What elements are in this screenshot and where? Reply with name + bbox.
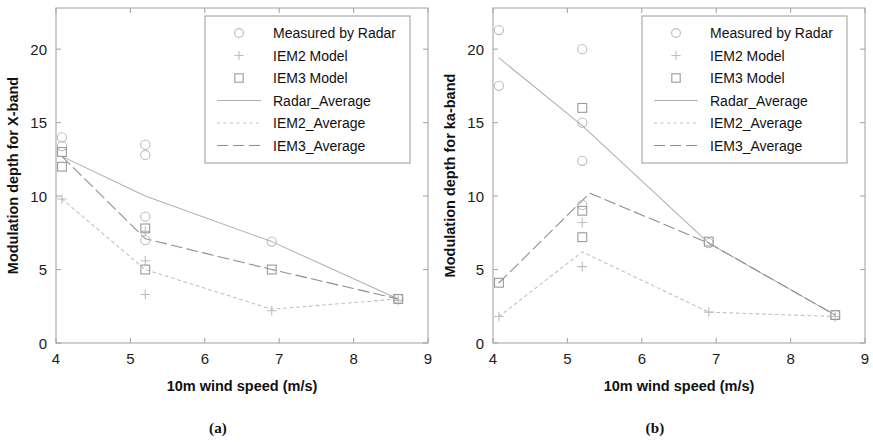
- data-point-plus: [140, 256, 150, 266]
- data-point-circle: [141, 150, 150, 159]
- data-point-circle: [494, 25, 503, 34]
- legend-item-label: Radar_Average: [710, 93, 808, 109]
- x-tick-label: 6: [201, 350, 209, 367]
- y-tick-label: 10: [467, 188, 484, 205]
- x-axis-title: 10m wind speed (m/s): [604, 378, 755, 394]
- legend-item-label: IEM2 Model: [273, 48, 348, 64]
- series-line-4: [62, 199, 398, 309]
- x-tick-label: 8: [786, 350, 794, 367]
- chart-panel-b: 4567890510152010m wind speed (m/s)Modula…: [437, 0, 873, 443]
- legend-item-label: Radar_Average: [273, 93, 371, 109]
- x-axis-title: 10m wind speed (m/s): [167, 378, 318, 394]
- data-point-circle: [141, 236, 150, 245]
- legend: Measured by RadarIEM2 ModelIEM3 ModelRad…: [205, 16, 410, 163]
- legend-item-label: IEM3_Average: [273, 138, 366, 154]
- data-point-square: [58, 162, 67, 171]
- x-tick-label: 8: [349, 350, 357, 367]
- chart-svg-a: 4567890510152010m wind speed (m/s)Modula…: [0, 0, 436, 400]
- data-point-circle: [57, 133, 66, 142]
- x-tick-label: 7: [712, 350, 720, 367]
- data-point-circle: [578, 200, 587, 209]
- y-tick-label: 0: [39, 335, 47, 352]
- y-tick-label: 0: [476, 335, 484, 352]
- data-point-plus: [267, 306, 277, 316]
- legend: Measured by RadarIEM2 ModelIEM3 ModelRad…: [642, 16, 847, 163]
- data-point-plus: [704, 307, 714, 317]
- data-point-square: [578, 104, 587, 113]
- series-line-5: [62, 156, 398, 299]
- legend-item-label: IEM2_Average: [710, 115, 803, 131]
- y-tick-label: 10: [30, 188, 47, 205]
- data-point-circle: [578, 156, 587, 165]
- data-point-circle: [141, 212, 150, 221]
- legend-item-label: IEM3_Average: [710, 138, 803, 154]
- chart-panel-a: 4567890510152010m wind speed (m/s)Modula…: [0, 0, 436, 443]
- panel-caption-a: (a): [0, 420, 436, 437]
- legend-item-label: IEM2 Model: [710, 48, 785, 64]
- series-line-4: [499, 252, 835, 317]
- y-tick-label: 20: [30, 41, 47, 58]
- series-line-5: [499, 193, 835, 315]
- data-point-circle: [494, 81, 503, 90]
- data-point-plus: [140, 290, 150, 300]
- y-tick-label: 15: [30, 114, 47, 131]
- y-axis-title: Modulation depth for X-band: [5, 77, 21, 274]
- data-point-plus: [577, 262, 587, 272]
- x-tick-label: 9: [424, 350, 432, 367]
- data-point-plus: [494, 312, 504, 322]
- legend-item-label: IEM3 Model: [273, 70, 348, 86]
- data-point-square: [578, 233, 587, 242]
- data-point-plus: [577, 218, 587, 228]
- series-markers-1: [494, 218, 840, 322]
- y-axis-title: Modulation depth for ka-band: [442, 74, 458, 278]
- legend-item-label: IEM3 Model: [710, 70, 785, 86]
- panel-caption-b: (b): [437, 420, 873, 437]
- x-tick-label: 4: [52, 350, 60, 367]
- series-line-3: [62, 156, 398, 299]
- y-tick-label: 20: [467, 41, 484, 58]
- data-point-circle: [578, 45, 587, 54]
- x-tick-label: 5: [563, 350, 571, 367]
- data-point-circle: [57, 142, 66, 151]
- x-tick-label: 4: [489, 350, 497, 367]
- series-markers-1: [57, 194, 403, 315]
- x-tick-label: 5: [126, 350, 134, 367]
- x-tick-label: 9: [861, 350, 869, 367]
- legend-item-label: Measured by Radar: [273, 25, 396, 41]
- x-tick-label: 7: [275, 350, 283, 367]
- figure-container: 4567890510152010m wind speed (m/s)Modula…: [0, 0, 873, 443]
- y-tick-label: 5: [39, 261, 47, 278]
- x-tick-label: 6: [638, 350, 646, 367]
- y-tick-label: 5: [476, 261, 484, 278]
- legend-item-label: IEM2_Average: [273, 115, 366, 131]
- data-point-circle: [141, 140, 150, 149]
- legend-item-label: Measured by Radar: [710, 25, 833, 41]
- chart-svg-b: 4567890510152010m wind speed (m/s)Modula…: [437, 0, 873, 400]
- y-tick-label: 15: [467, 114, 484, 131]
- series-markers-2: [58, 148, 403, 304]
